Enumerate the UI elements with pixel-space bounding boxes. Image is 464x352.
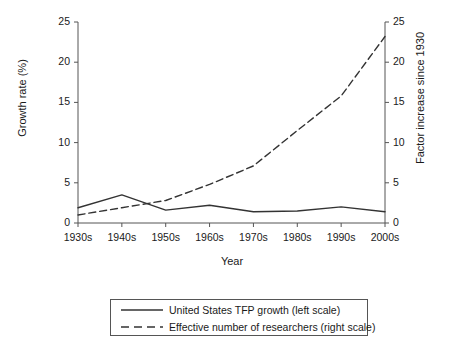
x-axis-tick-label: 2000s <box>361 231 409 243</box>
x-axis-tick-label: 1960s <box>186 231 234 243</box>
x-axis-title: Year <box>0 255 464 267</box>
legend-label-tfp-growth: United States TFP growth (left scale) <box>169 304 340 316</box>
legend-sample-dashed-line <box>119 321 165 333</box>
right-axis-tick-label: 20 <box>393 55 421 67</box>
legend-item-effective-researchers: Effective number of researchers (right s… <box>111 318 367 336</box>
right-axis-tick-label: 10 <box>393 136 421 148</box>
x-axis-tick-label: 1990s <box>317 231 365 243</box>
legend-item-tfp-growth: United States TFP growth (left scale) <box>111 301 367 319</box>
left-axis-tick-label: 25 <box>42 15 70 27</box>
right-axis-tick-label: 0 <box>393 216 421 228</box>
chart-legend: United States TFP growth (left scale) Ef… <box>110 299 368 336</box>
left-axis-tick-label: 5 <box>42 176 70 188</box>
left-axis-tick-label: 20 <box>42 55 70 67</box>
x-axis-tick-label: 1940s <box>98 231 146 243</box>
x-axis-tick-label: 1980s <box>273 231 321 243</box>
series-line-tfp-growth <box>78 195 385 212</box>
x-axis-tick-label: 1930s <box>54 231 102 243</box>
x-axis-tick-label: 1970s <box>229 231 277 243</box>
legend-label-effective-researchers: Effective number of researchers (right s… <box>169 321 375 333</box>
right-axis-tick-label: 25 <box>393 15 421 27</box>
left-axis-tick-label: 0 <box>42 216 70 228</box>
chart-figure: Growth rate (%) Factor increase since 19… <box>0 0 464 352</box>
right-axis-tick-marks <box>385 22 389 223</box>
x-axis-tick-marks <box>78 223 385 227</box>
left-axis-title: Growth rate (%) <box>16 38 28 158</box>
right-axis-tick-label: 5 <box>393 176 421 188</box>
left-axis-tick-label: 15 <box>42 95 70 107</box>
series-line-effective-researchers <box>78 36 385 214</box>
left-axis-tick-marks <box>74 22 78 223</box>
left-axis-tick-label: 10 <box>42 136 70 148</box>
x-axis-tick-label: 1950s <box>142 231 190 243</box>
right-axis-tick-label: 15 <box>393 95 421 107</box>
legend-sample-solid-line <box>119 304 165 316</box>
